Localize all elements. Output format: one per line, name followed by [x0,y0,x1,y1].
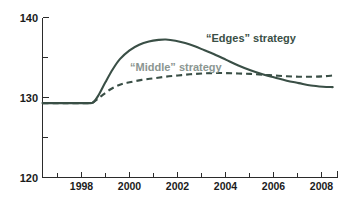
x-axis-label-2006: 2006 [262,180,286,192]
x-axis-label-1998: 1998 [70,180,94,192]
chart-background [0,0,351,204]
y-axis-label-120: 120 [20,172,38,184]
x-axis-label-2000: 2000 [118,180,142,192]
annotation-edges-strategy: “Edges” strategy [206,32,297,44]
line-chart: 140 130 120 1998 2000 [0,0,351,204]
chart-figure: 140 130 120 1998 2000 [0,0,351,204]
y-axis-label-140: 140 [20,12,38,24]
annotation-middle-strategy: “Middle” strategy [130,61,223,73]
x-axis-label-2008: 2008 [310,180,334,192]
x-axis-label-2004: 2004 [214,180,238,192]
y-axis-label-130: 130 [20,92,38,104]
x-axis-label-2002: 2002 [166,180,190,192]
